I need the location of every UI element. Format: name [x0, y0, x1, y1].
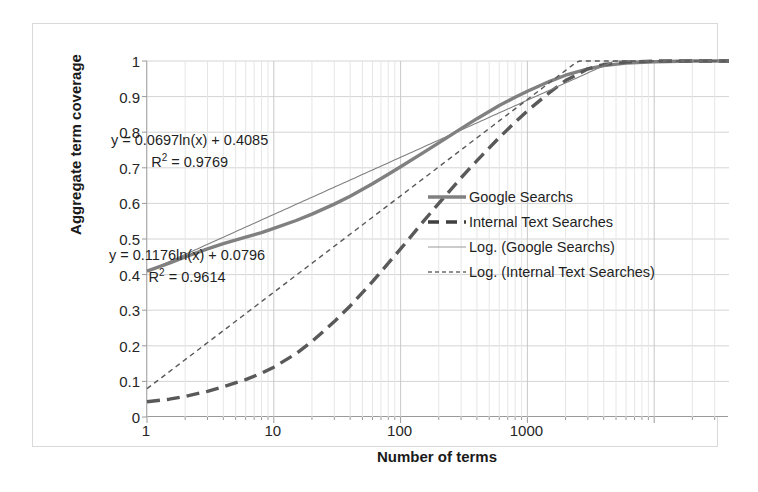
- annotation-internal-equation: y = 0.1176ln(x) + 0.0796: [109, 246, 265, 266]
- legend-swatch-icon: [428, 216, 466, 228]
- x-axis-tick-label: 1: [142, 423, 150, 438]
- y-axis-tick-label: 0.6: [94, 196, 140, 211]
- y-axis-title: Aggregate term coverage: [67, 35, 84, 255]
- legend-item[interactable]: Log. (Internal Text Searches): [428, 259, 673, 284]
- x-axis-title: Number of terms: [146, 448, 728, 465]
- legend-swatch-icon: [428, 241, 466, 253]
- y-axis-tick-label: 0.9: [94, 89, 140, 104]
- legend-label: Log. (Google Searchs): [469, 239, 615, 255]
- chart-legend: Google SearchsInternal Text SearchesLog.…: [428, 184, 673, 284]
- x-axis-tick-label: 10: [264, 423, 281, 438]
- chart-frame: 10.90.80.70.60.50.40.30.20.10 Aggregate …: [32, 23, 718, 447]
- legend-label: Log. (Internal Text Searches): [469, 264, 655, 280]
- x-axis-tick-label: 1000: [510, 423, 543, 438]
- annotation-internal-r2: R2 = 0.9614: [109, 266, 265, 287]
- legend-swatch-icon: [428, 266, 466, 278]
- legend-label: Google Searchs: [469, 189, 573, 205]
- y-axis-tick-label: 0.5: [94, 232, 140, 247]
- legend-swatch-icon: [428, 191, 466, 203]
- y-axis-tick-label: 0: [94, 410, 140, 425]
- annotation-google-r2: R2 = 0.9769: [111, 151, 268, 172]
- y-axis-tick-labels: 10.90.80.70.60.50.40.30.20.10: [88, 61, 140, 417]
- legend-label: Internal Text Searches: [469, 214, 613, 230]
- x-axis-tick-label: 100: [387, 423, 412, 438]
- annotation-google-fit: y = 0.0697ln(x) + 0.4085 R2 = 0.9769: [111, 131, 268, 172]
- annotation-google-equation: y = 0.0697ln(x) + 0.4085: [111, 131, 268, 151]
- annotation-internal-fit: y = 0.1176ln(x) + 0.0796 R2 = 0.9614: [109, 246, 265, 287]
- y-axis-tick-label: 0.3: [94, 303, 140, 318]
- legend-item[interactable]: Internal Text Searches: [428, 209, 673, 234]
- y-axis-tick-label: 0.2: [94, 338, 140, 353]
- legend-item[interactable]: Log. (Google Searchs): [428, 234, 673, 259]
- y-axis-tick-label: 0.1: [94, 374, 140, 389]
- y-axis-tick-label: 1: [94, 54, 140, 69]
- x-axis-tick-labels: 1101001000: [146, 423, 728, 443]
- legend-item[interactable]: Google Searchs: [428, 184, 673, 209]
